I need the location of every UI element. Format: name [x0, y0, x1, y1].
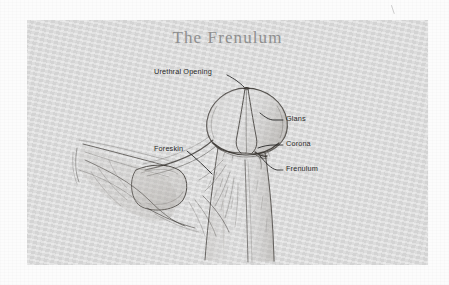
leader-glans: [260, 113, 283, 120]
label-corona: Corona: [286, 139, 311, 148]
page-title: The Frenulum: [27, 28, 428, 48]
leader-frenulum: [260, 156, 283, 170]
label-foreskin: Foreskin: [154, 144, 183, 153]
figure-panel: The Frenulum: [27, 20, 428, 265]
anatomical-illustration: [27, 20, 428, 265]
panel-texture-overlay: [27, 20, 428, 265]
leader-foreskin: [187, 151, 212, 174]
label-leader-lines: [27, 20, 428, 265]
leader-corona: [258, 145, 283, 148]
label-frenulum: Frenulum: [286, 164, 318, 173]
leader-urethral-opening: [227, 75, 244, 87]
screenshot-root: The Frenulum: [0, 0, 449, 285]
stray-pen-mark-icon: [391, 5, 395, 14]
label-glans: Glans: [286, 114, 306, 123]
label-urethral-opening: Urethral Opening: [154, 67, 212, 76]
